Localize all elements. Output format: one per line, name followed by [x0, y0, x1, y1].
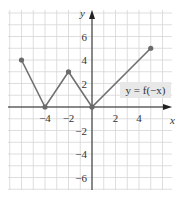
function-graph: xy −4−224642−2−4−6 y = f(−x)	[0, 0, 182, 202]
y-tick-label: 2	[82, 78, 88, 90]
x-tick-label: −4	[39, 112, 51, 124]
x-tick-label: 4	[136, 112, 142, 124]
data-point-marker	[148, 46, 153, 51]
x-axis-arrow-icon	[163, 104, 172, 110]
curve-label: y = f(−x)	[120, 82, 171, 98]
y-tick-label: 6	[82, 31, 88, 43]
y-axis-arrow-icon	[89, 10, 95, 19]
y-tick-label: −6	[75, 172, 87, 184]
y-axis-label: y	[79, 7, 85, 19]
data-point-marker	[66, 69, 71, 74]
y-tick-label: −2	[75, 125, 87, 137]
y-tick-label: 4	[82, 54, 88, 66]
x-tick-label: −2	[63, 112, 75, 124]
x-tick-label: 2	[113, 112, 119, 124]
data-point-marker	[42, 104, 47, 109]
y-tick-label: −4	[75, 148, 87, 160]
grid-lines	[8, 10, 172, 190]
data-point-marker	[19, 57, 24, 62]
data-point-marker	[89, 104, 94, 109]
curve-label-text: y = f(−x)	[126, 84, 166, 97]
x-axis-label: x	[169, 114, 175, 126]
